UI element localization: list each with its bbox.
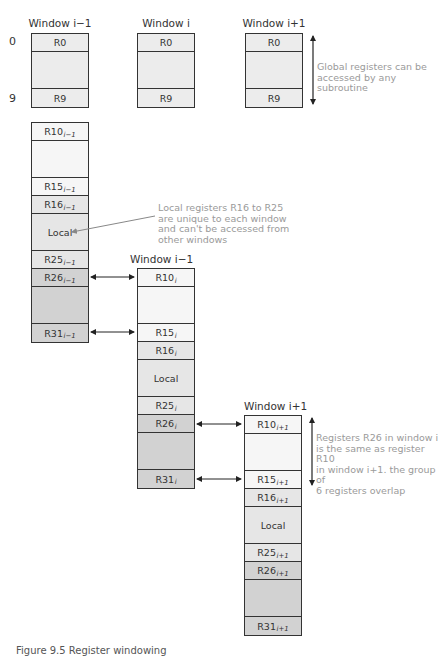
figure-caption: Figure 9.5 Register windowing [16,645,167,656]
local-pointer-arrow-icon [72,216,155,232]
